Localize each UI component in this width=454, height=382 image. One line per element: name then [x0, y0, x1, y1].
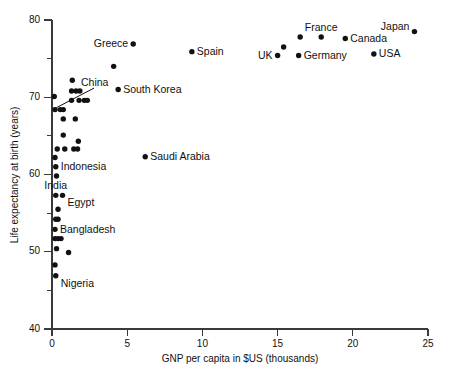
data-point — [53, 164, 58, 169]
point-label-usa: USA — [379, 47, 401, 59]
data-point — [52, 262, 57, 267]
data-point — [62, 146, 67, 151]
x-axis-title: GNP per capita in $US (thousands) — [162, 353, 319, 364]
point-label-greece: Greece — [94, 37, 129, 49]
data-point — [77, 88, 82, 93]
x-tick-label: 15 — [272, 338, 284, 349]
x-tick-label: 0 — [49, 338, 55, 349]
data-point — [296, 53, 301, 58]
data-point — [52, 227, 57, 232]
point-label-indonesia: Indonesia — [61, 160, 107, 172]
point-label-france: France — [305, 21, 338, 33]
point-label-uk: UK — [258, 49, 273, 61]
data-point — [343, 36, 348, 41]
data-point — [61, 132, 66, 137]
data-point — [76, 98, 81, 103]
point-label-india: India — [44, 179, 67, 191]
data-point — [52, 94, 57, 99]
axes-group — [52, 20, 428, 329]
point-label-china: China — [81, 76, 109, 88]
data-point — [412, 29, 417, 34]
data-labels-layer: ChinaIndonesiaIndiaEgyptBangladeshNigeri… — [44, 20, 409, 289]
plot-canvas: 4050607080 0510152025 ChinaIndonesiaIndi… — [0, 0, 454, 382]
data-point — [52, 155, 57, 160]
data-point — [189, 49, 194, 54]
y-tick-label: 40 — [29, 323, 41, 334]
point-label-spain: Spain — [197, 45, 224, 57]
point-label-south-korea: South Korea — [123, 83, 182, 95]
point-label-saudi-arabia: Saudi Arabia — [150, 150, 210, 162]
data-point — [319, 34, 324, 39]
data-point — [275, 53, 280, 58]
data-point — [131, 41, 136, 46]
data-point — [76, 139, 81, 144]
x-tick-label: 20 — [347, 338, 359, 349]
data-point — [55, 217, 60, 222]
point-label-nigeria: Nigeria — [61, 277, 94, 289]
y-tick-label: 70 — [29, 91, 41, 102]
point-label-japan: Japan — [381, 20, 410, 32]
data-point — [58, 236, 63, 241]
y-axis-title: Life expectancy at birth (years) — [9, 107, 20, 244]
x-axis-ticks: 0510152025 — [49, 329, 434, 349]
point-label-germany: Germany — [304, 49, 348, 61]
data-point — [61, 107, 66, 112]
y-tick-label: 60 — [29, 168, 41, 179]
data-points-layer — [52, 29, 418, 279]
x-tick-label: 10 — [197, 338, 209, 349]
data-point — [297, 34, 302, 39]
data-point — [66, 250, 71, 255]
data-point — [143, 154, 148, 159]
data-point — [75, 146, 80, 151]
data-point — [73, 116, 78, 121]
data-point — [53, 273, 58, 278]
point-label-canada: Canada — [350, 32, 387, 44]
y-tick-label: 80 — [29, 14, 41, 25]
scatter-plot-figure: 4050607080 0510152025 ChinaIndonesiaIndi… — [0, 0, 454, 382]
data-point — [54, 246, 59, 251]
data-point — [70, 78, 75, 83]
data-point — [111, 64, 116, 69]
point-label-bangladesh: Bangladesh — [60, 223, 116, 235]
data-point — [61, 116, 66, 121]
data-point — [85, 98, 90, 103]
data-point — [54, 173, 59, 178]
y-axis-ticks: 4050607080 — [29, 14, 52, 334]
point-label-egypt: Egypt — [68, 196, 95, 208]
data-point — [371, 51, 376, 56]
data-point — [53, 193, 58, 198]
data-point — [281, 44, 286, 49]
data-point — [115, 87, 120, 92]
y-tick-label: 50 — [29, 245, 41, 256]
data-point — [55, 146, 60, 151]
x-tick-label: 5 — [124, 338, 130, 349]
x-tick-label: 25 — [422, 338, 434, 349]
data-point — [60, 193, 65, 198]
data-point — [55, 207, 60, 212]
